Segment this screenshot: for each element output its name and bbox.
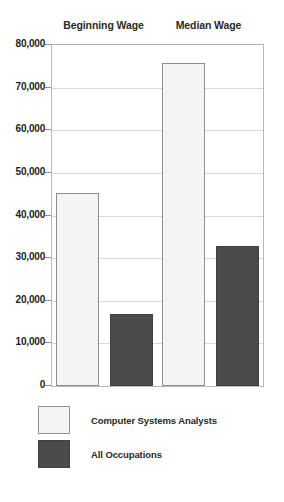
y-tick-label: 60,000 <box>0 123 45 134</box>
bar-beginning-wage-computer-systems-analysts <box>56 193 99 386</box>
bar-beginning-wage-all-occupations <box>110 314 153 386</box>
y-tick-label: 20,000 <box>0 294 45 305</box>
y-tick-label: 0 <box>0 379 45 390</box>
chart-group-headers: Beginning Wage Median Wage <box>51 19 262 35</box>
y-tick-label: 70,000 <box>0 81 45 92</box>
wage-comparison-bar-chart: Beginning Wage Median Wage 010,00020,000… <box>0 0 284 502</box>
legend-swatch-dark <box>38 440 70 468</box>
gridline <box>52 88 263 89</box>
y-tick-label: 30,000 <box>0 251 45 262</box>
chart-title-clipped <box>0 0 284 3</box>
y-axis: 010,00020,00030,00040,00050,00060,00070,… <box>0 44 45 385</box>
bar-median-wage-all-occupations <box>216 246 259 386</box>
y-tick-label: 40,000 <box>0 209 45 220</box>
group-header-median-wage: Median Wage <box>156 19 261 31</box>
legend-swatch-light <box>38 406 70 434</box>
legend-item-label: Computer Systems Analysts <box>91 415 217 426</box>
legend-item: All Occupations <box>38 437 268 471</box>
plot-area <box>51 44 264 387</box>
y-tick-label: 50,000 <box>0 166 45 177</box>
legend-item: Computer Systems Analysts <box>38 403 268 437</box>
legend-item-label: All Occupations <box>91 449 162 460</box>
y-tick-label: 80,000 <box>0 38 45 49</box>
group-header-beginning-wage: Beginning Wage <box>51 19 156 31</box>
bar-median-wage-computer-systems-analysts <box>162 63 205 386</box>
chart-legend: Computer Systems AnalystsAll Occupations <box>38 403 268 471</box>
gridline <box>52 173 263 174</box>
y-tick-label: 10,000 <box>0 336 45 347</box>
gridline <box>52 130 263 131</box>
